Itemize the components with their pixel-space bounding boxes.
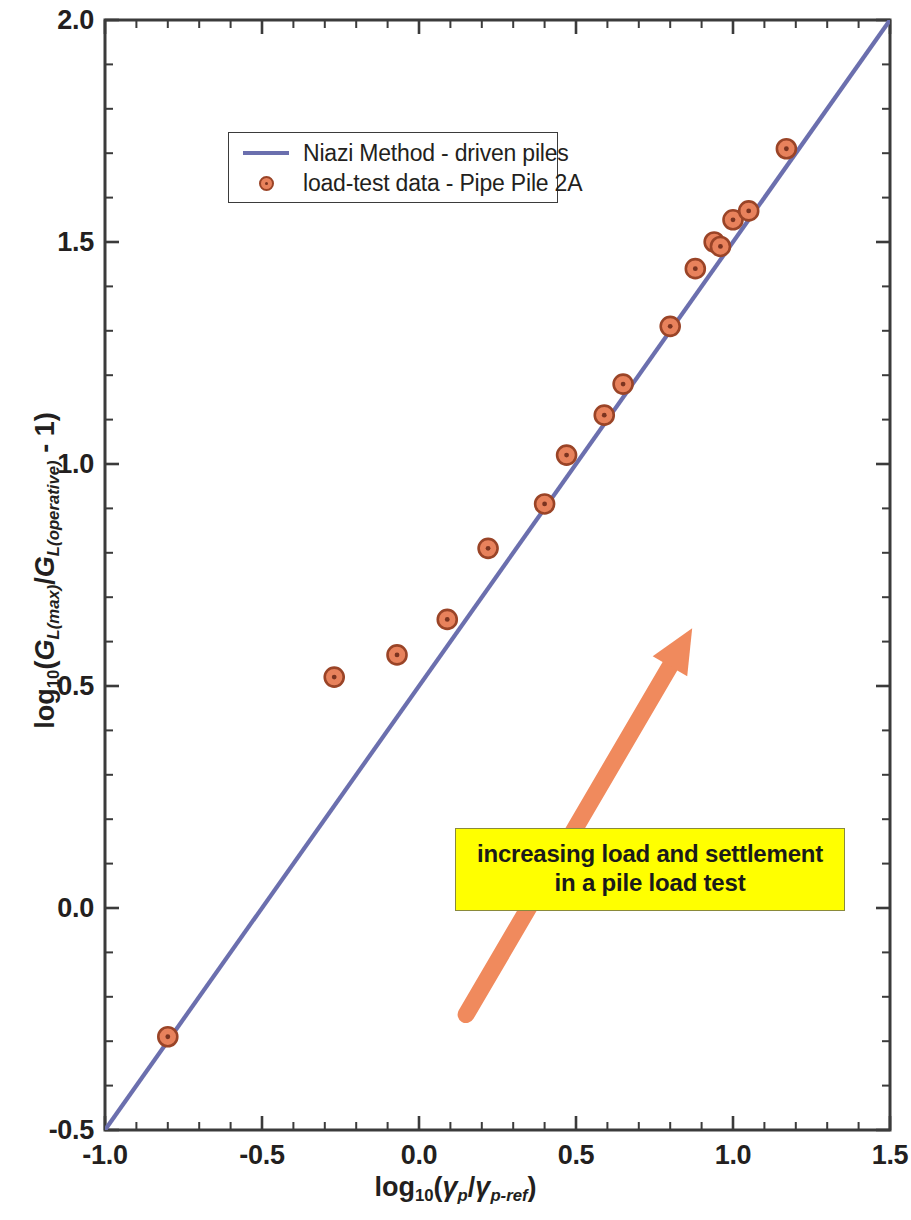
data-point: [686, 259, 705, 278]
x-axis-title: log10(γp/γp-ref): [0, 1172, 911, 1203]
data-point: [479, 539, 498, 558]
chart-figure: 2.0 1.5 1.0 0.5 0.0 -0.5 -1.0 -0.5 0.0 0…: [0, 0, 911, 1220]
legend-label-niazi-method: Niazi Method - driven piles: [303, 140, 569, 167]
legend-line-swatch-icon: [229, 151, 303, 155]
x-tick-label--0.5: -0.5: [202, 1140, 322, 1171]
data-point: [158, 1027, 177, 1046]
data-point: [557, 446, 576, 465]
legend: Niazi Method - driven piles load-test da…: [228, 132, 558, 203]
data-point: [711, 237, 730, 256]
x-tick-label-1.5: 1.5: [830, 1140, 911, 1171]
y-axis-title: log10(GL(max)/GL(operative) - 1): [30, 412, 61, 728]
legend-item-load-test-data: load-test data - Pipe Pile 2A: [229, 168, 557, 198]
data-point: [388, 645, 407, 664]
data-point: [777, 139, 796, 158]
data-point: [614, 375, 633, 394]
data-point: [661, 317, 680, 336]
legend-marker-swatch-icon: [229, 176, 303, 191]
y-tick-label-2.0: 2.0: [8, 5, 94, 36]
increasing-load-callout: increasing load and settlement in a pile…: [455, 828, 845, 911]
data-point: [739, 201, 758, 220]
data-point: [535, 494, 554, 513]
x-tick-label-1.0: 1.0: [673, 1140, 793, 1171]
x-tick-label--1.0: -1.0: [45, 1140, 165, 1171]
y-axis-title-wrapper: log10(GL(max)/GL(operative) - 1): [30, 171, 61, 971]
data-point: [325, 668, 344, 687]
x-tick-label-0.0: 0.0: [359, 1140, 479, 1171]
callout-line-1: increasing load and settlement: [464, 839, 836, 868]
legend-item-niazi-method: Niazi Method - driven piles: [229, 138, 557, 168]
data-point: [595, 406, 614, 425]
data-point: [438, 610, 457, 629]
x-tick-label-0.5: 0.5: [516, 1140, 636, 1171]
legend-label-load-test-data: load-test data - Pipe Pile 2A: [303, 170, 582, 197]
callout-line-2: in a pile load test: [464, 868, 836, 897]
